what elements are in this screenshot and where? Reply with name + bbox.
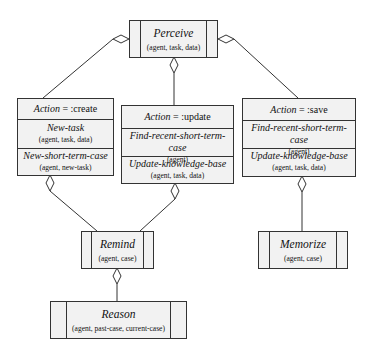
process-perceive[interactable]: Perceive (agent, task, data) <box>129 20 218 58</box>
action-value: = :update <box>171 111 211 122</box>
action-create-box[interactable]: Action = :create New-task (agent, task, … <box>17 98 114 176</box>
action-value: = :create <box>60 103 97 114</box>
operation-name: New-task <box>18 122 113 134</box>
action-value: = :save <box>296 104 327 115</box>
aggregation-diamond-icon <box>298 176 306 192</box>
operation-name: Update-knowledge-base <box>122 158 233 170</box>
process-title: Memorize <box>280 237 326 251</box>
operation-args: (agent, new-task) <box>18 162 113 174</box>
process-remind[interactable]: Remind (agent, case) <box>81 231 154 269</box>
action-keyword: Action <box>144 111 170 122</box>
operation-find-recent-short-term-case: Find-recent-short-term-case (agent) <box>122 128 233 156</box>
aggregation-diamond-icon <box>218 35 234 43</box>
process-title: Remind <box>100 237 135 251</box>
process-bar-right <box>143 232 144 268</box>
aggregation-diamond-icon <box>46 175 54 191</box>
process-reason[interactable]: Reason (agent, past-case, current-case) <box>50 301 187 339</box>
action-header: Action = :save <box>243 99 355 120</box>
operation-new-short-term-case: New-short-term-case (agent, new-task) <box>18 148 113 175</box>
operation-find-recent-short-term-case: Find-recent-short-term-case (agent) <box>243 120 355 148</box>
operation-name: New-short-term-case <box>18 150 113 162</box>
operation-name: Find-recent-short-term-case <box>122 130 233 154</box>
aggregation-diamond-icon <box>113 268 121 284</box>
connector-update-remind <box>140 199 175 231</box>
process-title: Reason <box>102 307 136 321</box>
action-save-box[interactable]: Action = :save Find-recent-short-term-ca… <box>242 98 356 177</box>
connector-create-remind <box>50 191 97 231</box>
operation-args: (agent, task, data) <box>122 170 233 182</box>
operation-new-task: New-task (agent, task, data) <box>18 119 113 148</box>
operation-args: (agent, task, data) <box>18 134 113 146</box>
connector-perceive-create <box>43 39 113 98</box>
connector-perceive-save <box>234 39 298 98</box>
operation-name: Find-recent-short-term-case <box>243 122 355 146</box>
aggregation-diamond-icon <box>171 183 179 199</box>
process-bar-left <box>140 21 141 57</box>
action-header: Action = :update <box>122 106 233 128</box>
process-args: (agent, past-case, current-case) <box>72 323 165 334</box>
action-update-box[interactable]: Action = :update Find-recent-short-term-… <box>121 105 234 184</box>
process-bar-left <box>91 232 92 268</box>
operation-update-knowledge-base: Update-knowledge-base (agent, task, data… <box>122 156 233 183</box>
process-bar-right <box>336 232 337 268</box>
process-memorize[interactable]: Memorize (agent, case) <box>258 231 348 269</box>
process-args: (agent, case) <box>99 253 137 264</box>
action-header: Action = :create <box>18 99 113 119</box>
action-keyword: Action <box>34 103 60 114</box>
process-bar-right <box>170 302 171 338</box>
process-bar-left <box>66 302 67 338</box>
operation-args: (agent, task, data) <box>243 162 355 174</box>
aggregation-diamond-icon <box>170 57 178 73</box>
process-args: (agent, task, data) <box>147 42 200 53</box>
action-keyword: Action <box>270 104 296 115</box>
operation-name: Update-knowledge-base <box>243 150 355 162</box>
process-title: Perceive <box>154 26 194 40</box>
operation-update-knowledge-base: Update-knowledge-base (agent, task, data… <box>243 148 355 176</box>
aggregation-diamond-icon <box>113 35 129 43</box>
process-args: (agent, case) <box>284 253 322 264</box>
process-bar-left <box>269 232 270 268</box>
process-bar-right <box>206 21 207 57</box>
